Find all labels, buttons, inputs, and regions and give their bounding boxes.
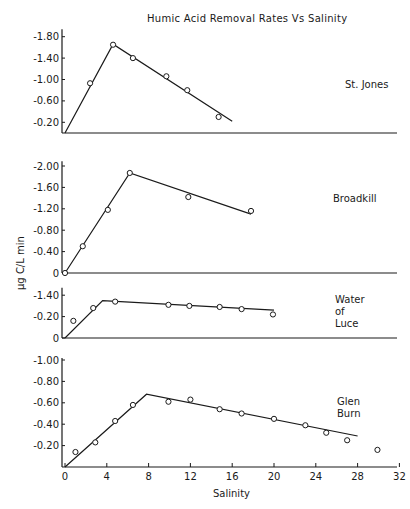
data-point — [62, 270, 67, 275]
panel-broadkill: -2.00-1.60-1.20-0.80-0.400Broadkill — [33, 161, 397, 279]
x-tick-label: 4 — [104, 471, 110, 482]
data-point — [217, 407, 222, 412]
chart-panels: -1.80-1.40-1.00-0.60-0.20St. Jones-2.00-… — [33, 29, 397, 467]
data-point — [166, 302, 171, 307]
data-point — [113, 418, 118, 423]
fit-line — [65, 394, 358, 467]
x-tick-label: 0 — [62, 471, 68, 482]
data-point — [73, 449, 78, 454]
x-tick-label: 32 — [393, 471, 406, 482]
x-tick-label: 20 — [268, 471, 281, 482]
panel-label: Luce — [335, 318, 358, 329]
panel-st-jones: -1.80-1.40-1.00-0.60-0.20St. Jones — [33, 29, 397, 133]
data-point — [93, 440, 98, 445]
x-tick-label: 12 — [184, 471, 197, 482]
x-tick-label: 16 — [226, 471, 239, 482]
y-tick-label: -1.00 — [33, 355, 59, 366]
fit-line — [65, 44, 232, 133]
panel-label: St. Jones — [345, 79, 388, 90]
panel-label: Water — [335, 294, 365, 305]
x-tick-label: 28 — [351, 471, 364, 482]
y-tick-label: -0.80 — [33, 225, 59, 236]
data-point — [239, 307, 244, 312]
data-point — [71, 318, 76, 323]
data-point — [130, 402, 135, 407]
x-axis: 048121620242832 — [62, 463, 406, 482]
data-point — [127, 170, 132, 175]
data-point — [166, 399, 171, 404]
data-point — [239, 411, 244, 416]
data-point — [270, 312, 275, 317]
panel-label: Burn — [337, 408, 360, 419]
data-point — [248, 208, 253, 213]
y-tick-label: -1.60 — [33, 182, 59, 193]
x-axis-label: Salinity — [213, 488, 250, 499]
data-point — [80, 244, 85, 249]
y-tick-label: -0.40 — [33, 419, 59, 430]
y-tick-label: 0 — [53, 268, 59, 279]
data-point — [216, 114, 221, 119]
data-point — [105, 207, 110, 212]
y-tick-label: -0.60 — [33, 397, 59, 408]
y-tick-label: -0.60 — [33, 95, 59, 106]
panel-label: Broadkill — [333, 193, 376, 204]
y-tick-label: -1.40 — [33, 290, 59, 301]
panel-glen-burn: -1.00-0.80-0.60-0.40-0.20GlenBurn — [33, 355, 397, 468]
chart-title: Humic Acid Removal Rates Vs Salinity — [147, 13, 347, 24]
y-tick-label: -0.20 — [33, 117, 59, 128]
y-tick-label: -1.20 — [33, 203, 59, 214]
data-point — [187, 303, 192, 308]
y-tick-label: -1.40 — [33, 53, 59, 64]
data-point — [130, 56, 135, 61]
x-tick-label: 8 — [145, 471, 151, 482]
data-point — [303, 423, 308, 428]
data-point — [375, 447, 380, 452]
panel-label: of — [335, 306, 345, 317]
y-axis-label: µg C/L min — [15, 236, 26, 290]
y-tick-label: -0.80 — [33, 376, 59, 387]
x-tick-label: 24 — [309, 471, 322, 482]
y-tick-label: -1.00 — [33, 74, 59, 85]
y-tick-label: 0 — [53, 333, 59, 344]
humic-acid-chart: Humic Acid Removal Rates Vs Salinity -1.… — [0, 0, 410, 509]
fit-line — [65, 173, 251, 273]
data-point — [164, 74, 169, 79]
y-tick-label: -0.20 — [33, 311, 59, 322]
y-tick-label: -0.20 — [33, 440, 59, 451]
data-point — [345, 438, 350, 443]
y-tick-label: -1.80 — [33, 31, 59, 42]
y-tick-label: -0.40 — [33, 246, 59, 257]
data-point — [324, 430, 329, 435]
panel-water-of-luce: -1.40-0.200WaterofLuce — [33, 288, 397, 344]
data-point — [113, 299, 118, 304]
data-point — [185, 88, 190, 93]
data-point — [188, 397, 193, 402]
panel-label: Glen — [337, 396, 360, 407]
data-point — [271, 416, 276, 421]
data-point — [91, 305, 96, 310]
data-point — [87, 81, 92, 86]
data-point — [110, 42, 115, 47]
data-point — [217, 304, 222, 309]
data-point — [186, 194, 191, 199]
y-tick-label: -2.00 — [33, 161, 59, 172]
